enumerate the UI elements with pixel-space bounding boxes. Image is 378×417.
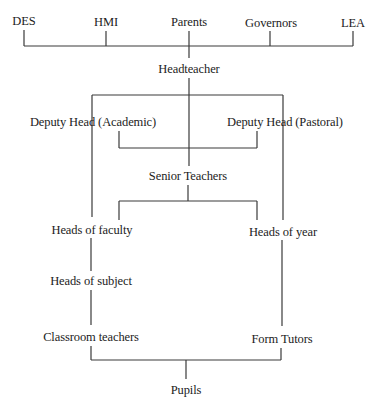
node-form-tutors: Form Tutors (251, 332, 312, 346)
node-pupils: Pupils (171, 383, 202, 397)
node-deputy-head-academic: Deputy Head (Academic) (30, 115, 156, 129)
node-heads-of-subject: Heads of subject (50, 274, 132, 288)
node-hmi: HMI (94, 15, 118, 29)
node-deputy-head-pastoral: Deputy Head (Pastoral) (227, 115, 343, 129)
node-senior-teachers: Senior Teachers (149, 169, 227, 183)
node-classroom-teachers: Classroom teachers (43, 330, 139, 344)
node-governors: Governors (245, 16, 297, 30)
node-heads-of-year: Heads of year (249, 225, 317, 239)
node-lea: LEA (341, 16, 365, 30)
node-heads-of-faculty: Heads of faculty (51, 223, 132, 237)
node-parents: Parents (171, 15, 207, 29)
node-headteacher: Headteacher (158, 62, 219, 76)
org-chart: DES HMI Parents Governors LEA Headteache… (0, 0, 378, 417)
node-des: DES (12, 14, 35, 28)
